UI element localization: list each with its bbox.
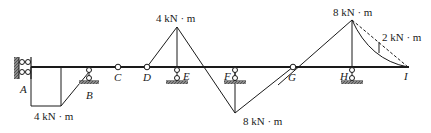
label-b: B: [86, 89, 93, 101]
hinge-d: [144, 64, 150, 70]
label-i: I: [403, 70, 409, 82]
support-b: [79, 68, 99, 85]
label-g: G: [288, 71, 296, 83]
moment-segment-ab: [31, 67, 89, 106]
hinge-g: [290, 64, 296, 70]
wall-support-a: [14, 57, 31, 79]
moment-segment-dg: [147, 27, 293, 113]
moment-label-f: 8 kN · m: [243, 115, 283, 127]
moment-diagram: A B C D E F G H I 4 kN · m 4 kN · m 8 kN…: [0, 0, 431, 133]
label-h: H: [339, 70, 349, 82]
moment-label-a: 4 kN · m: [34, 110, 74, 122]
label-a: A: [19, 83, 27, 95]
moment-label-hi: 2 kN · m: [382, 31, 422, 43]
label-f: F: [223, 70, 231, 82]
label-d: D: [142, 71, 151, 83]
moment-label-h: 8 kN · m: [333, 6, 373, 18]
hinge-c: [115, 64, 121, 70]
label-e: E: [182, 70, 190, 82]
moment-label-e: 4 kN · m: [156, 12, 196, 24]
label-c: C: [114, 71, 122, 83]
